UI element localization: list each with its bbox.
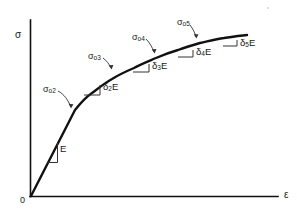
modulus-label-E: E	[60, 144, 66, 155]
stress-strain-diagram: σ ε 0 E δ2E δ3E δ4E δ5E σo2 σo3 σo4 σo5	[0, 0, 297, 218]
modulus-label-E-base: E	[60, 143, 66, 154]
leader-arrow-sigma-o3	[103, 58, 113, 70]
leader-arrow-sigma-o4	[146, 39, 157, 54]
y-axis-label: σ	[15, 30, 21, 40]
modulus-label-delta2E: δ2E	[103, 82, 118, 93]
stress-label-sigma-o3-sub: o3	[94, 54, 101, 61]
stress-label-sigma-o5: σo5	[177, 18, 190, 28]
modulus-label-delta4E: δ4E	[196, 47, 211, 58]
modulus-label-delta4E-tail: E	[205, 46, 211, 57]
modulus-label-delta3E: δ3E	[152, 61, 167, 72]
stress-label-sigma-o2-sub: o2	[49, 87, 56, 94]
leader-arrow-sigma-o2	[58, 91, 73, 109]
stress-label-sigma-o5-sub: o5	[183, 20, 190, 27]
modulus-label-delta3E-tail: E	[161, 60, 167, 71]
diagram-canvas	[0, 0, 297, 218]
stress-label-sigma-o2: σo2	[43, 85, 56, 95]
slope-triangle-delta4E	[178, 50, 193, 57]
x-axis-label: ε	[284, 190, 288, 200]
stress-label-sigma-o4: σo4	[132, 33, 145, 43]
scan-speck	[267, 7, 269, 9]
modulus-label-delta2E-tail: E	[112, 81, 118, 92]
modulus-label-delta5E-tail: E	[249, 37, 255, 48]
slope-triangle-delta5E	[223, 40, 237, 46]
origin-label: 0	[20, 196, 25, 205]
modulus-label-delta5E: δ5E	[240, 38, 255, 49]
leader-arrow-sigma-o5	[190, 25, 199, 39]
stress-label-sigma-o3: σo3	[88, 52, 101, 62]
stress-strain-curve	[31, 35, 247, 196]
stress-label-sigma-o4-sub: o4	[138, 35, 145, 42]
